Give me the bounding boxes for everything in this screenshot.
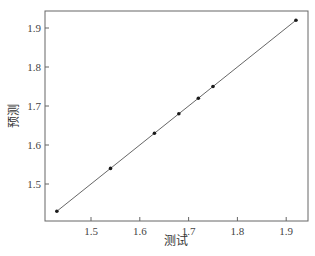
- y-tick-label: 1.6: [27, 139, 41, 151]
- data-point-marker: [294, 18, 298, 22]
- x-axis-label: 测试: [164, 233, 188, 248]
- data-point-marker: [109, 167, 113, 171]
- y-axis-label: 预测: [7, 104, 21, 128]
- data-point-marker: [211, 85, 215, 89]
- data-point-marker: [153, 132, 157, 136]
- y-tick-label: 1.9: [27, 22, 41, 34]
- y-tick-label: 1.8: [27, 61, 41, 73]
- chart-canvas: 1.51.61.71.81.9 1.51.61.71.81.9 测试 预测: [0, 0, 315, 256]
- y-tick-label: 1.5: [27, 178, 41, 190]
- data-point-marker: [197, 96, 201, 100]
- data-point-marker: [177, 112, 181, 116]
- series-line: [57, 20, 296, 211]
- x-axis-ticks: 1.51.61.71.81.9: [84, 217, 293, 237]
- x-tick-label: 1.9: [279, 225, 293, 237]
- x-tick-label: 1.6: [133, 225, 147, 237]
- y-tick-label: 1.7: [27, 100, 41, 112]
- y-axis-ticks: 1.51.61.71.81.9: [27, 22, 49, 190]
- data-point-marker: [55, 210, 59, 214]
- x-tick-label: 1.8: [231, 225, 245, 237]
- x-tick-label: 1.5: [84, 225, 98, 237]
